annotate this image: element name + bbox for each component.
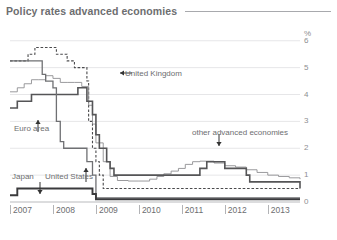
chart-title-row: Policy rates advanced economies [6, 3, 331, 19]
y-axis-tick-label: 0 [304, 198, 308, 206]
x-axis-tick-label: 2010 [142, 206, 161, 215]
y-axis: % 0123456 [300, 30, 337, 206]
y-axis-tick-label: 6 [304, 37, 308, 45]
x-axis-tick: 2012 [225, 205, 226, 214]
x-axis-tick-mark [268, 205, 269, 214]
x-axis-tick-mark [53, 205, 54, 214]
title-divider [185, 11, 331, 12]
x-axis-tick-mark [96, 205, 97, 214]
annotation-arrow [37, 182, 42, 194]
page-title: Policy rates advanced economies [6, 5, 177, 17]
x-axis-tick-label: 2007 [13, 206, 32, 215]
chart-figure: Policy rates advanced economies % 012345… [0, 0, 337, 240]
y-axis-tick-label: 2 [304, 144, 308, 152]
y-axis-tick-label: 5 [304, 64, 308, 72]
x-axis-tick-label: 2008 [56, 206, 75, 215]
x-axis: 2007200820092010201120122013 [10, 205, 300, 235]
annotation-united-states: United States [45, 172, 93, 181]
x-axis-tick-mark [225, 205, 226, 214]
x-axis-tick: 2008 [53, 205, 54, 214]
annotation-other-advanced-economies: other advanced economies [192, 128, 288, 137]
annotation-euro-area: Euro area [14, 124, 49, 133]
x-axis-tick: 2011 [182, 205, 183, 214]
y-axis-tick-label: 3 [304, 117, 308, 125]
y-axis-tick-label: 4 [304, 91, 308, 99]
x-axis-tick-label: 2012 [228, 206, 247, 215]
x-axis-tick: 2010 [139, 205, 140, 214]
x-axis-tick-mark [182, 205, 183, 214]
x-axis-tick-label: 2009 [99, 206, 118, 215]
x-axis-tick: 2007 [10, 205, 11, 214]
annotation-united-kingdom: United Kingdom [125, 69, 182, 78]
x-axis-tick-label: 2011 [185, 206, 203, 215]
x-axis-tick-mark [10, 205, 11, 214]
x-axis-tick: 2013 [268, 205, 269, 214]
y-axis-tick-label: 1 [304, 171, 308, 179]
annotation-japan: Japan [12, 172, 34, 181]
x-axis-tick: 2009 [96, 205, 97, 214]
x-axis-tick-label: 2013 [271, 206, 290, 215]
x-axis-tick-mark [139, 205, 140, 214]
